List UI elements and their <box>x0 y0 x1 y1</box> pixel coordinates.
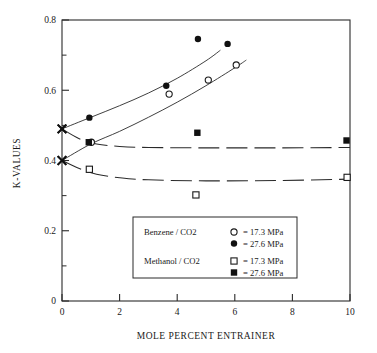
y-axis-label: K-VALUES <box>12 138 22 188</box>
legend-value-label-1: = 27.6 MPa <box>243 239 284 249</box>
legend-1-filled-circle-marker <box>231 240 237 246</box>
series-3-point-1-open-square-marker <box>86 166 92 172</box>
legend-system-label-0: Benzene / CO2 <box>144 227 197 237</box>
chart-legend: Benzene / CO2= 17.3 MPa= 27.6 MPaMethano… <box>133 217 297 278</box>
chart-background <box>0 0 377 353</box>
x-tick-label: 10 <box>345 307 355 317</box>
series-1-point-3-open-circle-marker <box>205 77 211 83</box>
y-tick-label: 0.8 <box>44 15 56 25</box>
series-3-point-2-open-square-marker <box>193 192 199 198</box>
series-0-point-1-filled-circle-marker <box>86 114 92 120</box>
x-tick-label: 6 <box>232 307 237 317</box>
x-tick-label: 2 <box>117 307 122 317</box>
legend-value-label-0: = 17.3 MPa <box>243 227 284 237</box>
y-tick-label: 0.2 <box>44 226 56 236</box>
series-0-point-3-filled-circle-marker <box>195 36 201 42</box>
series-0-point-4-filled-circle-marker <box>224 41 230 47</box>
legend-value-label-3: = 27.6 MPa <box>243 268 284 278</box>
x-tick-label: 4 <box>175 307 180 317</box>
y-tick-label: 0 <box>51 296 56 306</box>
series-2-point-1-filled-square-marker <box>86 139 92 145</box>
x-tick-label: 0 <box>60 307 65 317</box>
x-tick-label: 8 <box>290 307 295 317</box>
y-tick-label: 0.6 <box>44 86 56 96</box>
chart-container: 00.20.40.60.8 0246810 MOLE PERCENT ENTRA… <box>0 0 377 353</box>
k-values-scatter-chart: 00.20.40.60.8 0246810 MOLE PERCENT ENTRA… <box>0 0 377 353</box>
series-3-point-3-open-square-marker <box>344 174 350 180</box>
y-tick-label: 0.4 <box>44 156 56 166</box>
series-0-point-2-filled-circle-marker <box>163 82 169 88</box>
series-1-point-4-open-circle-marker <box>233 62 239 68</box>
series-2-point-3-filled-square-marker <box>343 137 349 143</box>
x-axis-label: MOLE PERCENT ENTRAINER <box>137 331 276 341</box>
series-2-point-2-filled-square-marker <box>194 130 200 136</box>
legend-0-open-circle-marker <box>231 229 237 235</box>
legend-system-label-2: Methanol / CO2 <box>144 256 200 266</box>
series-1-point-2-open-circle-marker <box>166 91 172 97</box>
legend-2-open-square-marker <box>231 258 237 264</box>
legend-3-filled-square-marker <box>231 269 237 275</box>
legend-value-label-2: = 17.3 MPa <box>243 256 284 266</box>
